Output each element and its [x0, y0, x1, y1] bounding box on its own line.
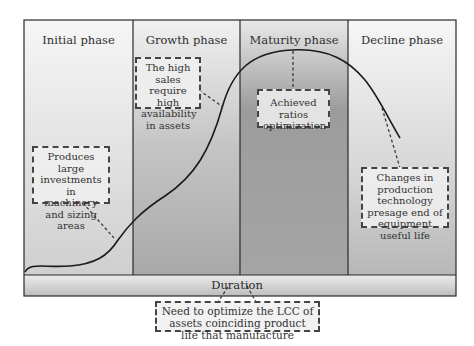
phase-label-growth: Growth phase	[133, 33, 240, 47]
note-initial: Produces large investments in machinery …	[32, 146, 110, 204]
note-maturity: Achieved ratios optimization	[257, 89, 330, 128]
note-decline: Changes in production technology presage…	[361, 167, 449, 228]
duration-label: Duration	[0, 278, 474, 292]
phase-label-maturity: Maturity phase	[240, 33, 348, 47]
note-duration: Need to optimize the LCC of assets coinc…	[155, 301, 320, 332]
note-growth: The high sales require high availability…	[135, 57, 201, 109]
phase-label-initial: Initial phase	[24, 33, 133, 47]
phase-label-decline: Decline phase	[348, 33, 456, 47]
